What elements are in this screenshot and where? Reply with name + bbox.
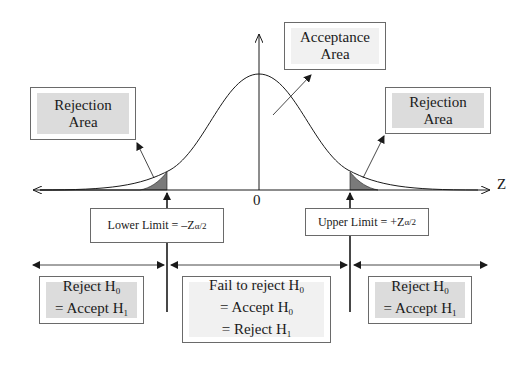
rejection-right-pointer: [363, 136, 384, 178]
origin-label: 0: [253, 192, 261, 209]
reject-h0-left-box: Reject H0 = Accept H1: [39, 276, 144, 324]
fail-to-reject-box: Fail to reject H0 = Accept H0 = Reject H…: [182, 276, 331, 343]
upper-limit-box: Upper Limit = +Zα/2: [305, 208, 429, 236]
acceptance-area-box: Acceptance Area: [284, 22, 386, 70]
reject-h0-right-box: Reject H0 = Accept H1: [368, 276, 472, 324]
rejection-area-right-box: Rejection Area: [385, 87, 491, 134]
rejection-area-left-box: Rejection Area: [30, 87, 136, 140]
rejection-left-pointer: [137, 143, 154, 178]
acceptance-pointer: [273, 75, 311, 115]
lower-limit-box: Lower Limit = –Zα/2: [90, 208, 224, 243]
z-axis-label: Z: [497, 176, 506, 193]
